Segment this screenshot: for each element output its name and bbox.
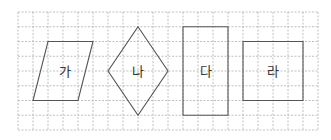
- shape-label: 나: [132, 64, 144, 79]
- shape-ra-square: 라: [243, 42, 303, 101]
- shape-label: 라: [267, 64, 279, 79]
- shape-label: 가: [59, 64, 71, 79]
- grid-figure: 가 나 다 라: [0, 0, 331, 140]
- shape-label: 다: [200, 64, 212, 79]
- shape-ga-parallelogram: 가: [33, 42, 93, 101]
